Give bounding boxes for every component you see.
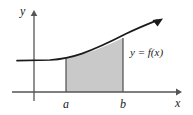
curve-arrowhead-icon bbox=[153, 19, 164, 27]
figure-canvas: y x a b y = f(x) bbox=[0, 0, 193, 115]
x-axis-arrowhead-icon bbox=[176, 89, 182, 96]
function-equation-label: y = f(x) bbox=[129, 46, 163, 59]
shaded-area-region bbox=[66, 38, 123, 92]
upper-bound-label-b: b bbox=[120, 97, 126, 111]
lower-bound-label-a: a bbox=[63, 97, 69, 111]
y-axis-arrowhead-icon bbox=[31, 10, 38, 16]
y-axis-label: y bbox=[19, 4, 26, 18]
integral-area-figure: y x a b y = f(x) bbox=[0, 0, 193, 115]
x-axis-label: x bbox=[174, 96, 181, 110]
